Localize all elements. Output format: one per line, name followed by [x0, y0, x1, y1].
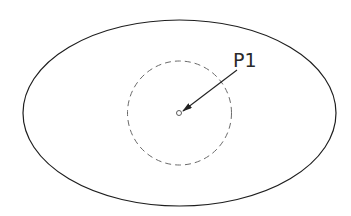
- outer-ellipse: [23, 20, 336, 206]
- point-label-p1: P1: [233, 49, 257, 71]
- center-point-icon: [177, 111, 182, 116]
- leader-arrow: [183, 70, 237, 111]
- dashed-circle: [128, 61, 232, 165]
- cad-drawing: P1: [0, 0, 351, 216]
